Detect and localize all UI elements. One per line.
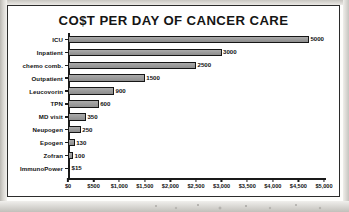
x-axis-tick-label: $1,500 — [136, 183, 153, 189]
x-axis-tick: $2,500 — [187, 178, 204, 189]
x-axis-tick: $2,000 — [162, 178, 179, 189]
scan-artifact — [150, 202, 340, 211]
chart-frame: CO$T PER DAY OF CANCER CARE ICU5000Inpat… — [7, 5, 340, 197]
x-axis-tick-mark — [170, 178, 171, 182]
bar-value-label: 1500 — [146, 75, 160, 81]
category-label: ICU — [52, 36, 63, 43]
x-axis-tick-mark — [272, 178, 273, 182]
x-axis-tick-label: $2,500 — [187, 183, 204, 189]
scan-page-edge-left — [0, 0, 7, 212]
category-label: chemo comb. — [23, 62, 63, 69]
y-axis-tick — [65, 65, 69, 66]
bar — [68, 74, 145, 81]
x-axis-tick-mark — [323, 178, 324, 182]
bar-value-label: 100 — [75, 153, 85, 159]
x-axis-tick-mark — [144, 178, 145, 182]
category-label: Leucovorin — [29, 88, 63, 95]
bar-value-label: $15 — [72, 165, 82, 171]
y-axis-tick — [65, 103, 69, 104]
bar — [68, 36, 309, 43]
x-axis-tick-mark — [67, 178, 68, 182]
x-axis-tick-label: $4,000 — [264, 183, 281, 189]
x-axis-tick-label: $5,000 — [315, 183, 332, 189]
x-axis-tick-label: $2,000 — [162, 183, 179, 189]
x-axis-tick: $0 — [65, 178, 71, 189]
x-axis-tick-mark — [118, 178, 119, 182]
category-label: MD visit — [39, 113, 63, 120]
x-axis-tick-label: $500 — [87, 183, 99, 189]
x-axis-tick-label: $0 — [65, 183, 71, 189]
x-axis-tick: $4,000 — [264, 178, 281, 189]
y-axis-tick — [65, 52, 69, 53]
x-axis-ticks: $0$500$1,000$1,500$2,000$2,500$3,000$3,5… — [68, 178, 324, 196]
y-axis-tick — [65, 90, 69, 91]
x-axis-tick-label: $4,500 — [290, 183, 307, 189]
bar-value-label: 5000 — [310, 36, 324, 42]
bar — [68, 113, 86, 120]
bar-row: ImmunoPower$15 — [68, 162, 324, 175]
category-label: TPN — [51, 100, 64, 107]
y-axis-tick — [65, 168, 69, 169]
x-axis-tick-label: $3,000 — [213, 183, 230, 189]
bar-value-label: 350 — [87, 114, 97, 120]
y-axis-tick — [65, 116, 69, 117]
x-axis-tick: $4,500 — [290, 178, 307, 189]
x-axis-tick: $3,500 — [239, 178, 256, 189]
bar-row: chemo comb.2500 — [68, 59, 324, 72]
bar-row: Inpatient3000 — [68, 46, 324, 59]
category-label: Zofran — [43, 152, 63, 159]
scan-page-edge-right — [343, 0, 349, 212]
bar-row: MD visit350 — [68, 110, 324, 123]
bar — [68, 87, 114, 94]
bar — [68, 126, 81, 133]
category-label: Epogen — [40, 139, 63, 146]
bar — [68, 49, 222, 56]
x-axis-tick-mark — [298, 178, 299, 182]
y-axis-tick — [65, 129, 69, 130]
x-axis-tick-label: $3,500 — [239, 183, 256, 189]
x-axis-tick-mark — [195, 178, 196, 182]
bar-row: TPN600 — [68, 98, 324, 111]
bar-row: Zofran100 — [68, 149, 324, 162]
x-axis-tick: $3,000 — [213, 178, 230, 189]
bar-row: ICU5000 — [68, 33, 324, 46]
y-axis-tick — [65, 39, 69, 40]
category-label: Neupogen — [32, 126, 63, 133]
plot-area: ICU5000Inpatient3000chemo comb.2500Outpa… — [68, 33, 324, 175]
category-label: Inpatient — [37, 49, 63, 56]
bar-value-label: 900 — [116, 88, 126, 94]
bar-value-label: 130 — [76, 140, 86, 146]
x-axis-tick: $1,500 — [136, 178, 153, 189]
x-axis-tick: $5,000 — [315, 178, 332, 189]
bar-row: Neupogen250 — [68, 123, 324, 136]
cost-per-day-bar-chart: CO$T PER DAY OF CANCER CARE ICU5000Inpat… — [0, 0, 349, 212]
bar-row: Epogen130 — [68, 136, 324, 149]
x-axis-tick: $500 — [87, 178, 99, 189]
bar — [68, 62, 196, 69]
category-label: Outpatient — [32, 75, 63, 82]
x-axis-tick-mark — [93, 178, 94, 182]
bar-series: ICU5000Inpatient3000chemo comb.2500Outpa… — [68, 33, 324, 175]
bar-row: Leucovorin900 — [68, 85, 324, 98]
x-axis-tick: $1,000 — [111, 178, 128, 189]
bar — [68, 100, 99, 107]
bar-row: Outpatient1500 — [68, 72, 324, 85]
y-axis-tick — [65, 142, 69, 143]
category-label: ImmunoPower — [20, 165, 63, 172]
bar-value-label: 3000 — [223, 49, 237, 55]
bar-value-label: 600 — [100, 101, 110, 107]
x-axis-tick-mark — [221, 178, 222, 182]
y-axis-tick — [65, 77, 69, 78]
chart-title: CO$T PER DAY OF CANCER CARE — [8, 13, 339, 28]
y-axis-tick — [65, 155, 69, 156]
bar-value-label: 2500 — [198, 62, 212, 68]
bar-value-label: 250 — [82, 127, 92, 133]
x-axis-tick-label: $1,000 — [111, 183, 128, 189]
x-axis-tick-mark — [246, 178, 247, 182]
